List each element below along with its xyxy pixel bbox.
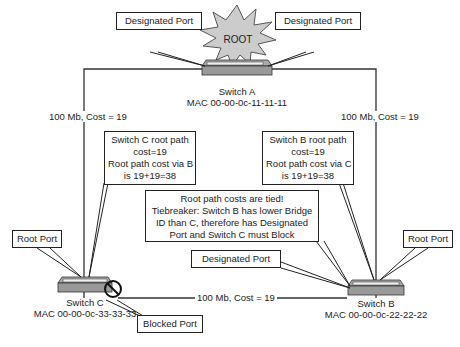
root-label: ROOT xyxy=(218,34,258,45)
link-c-b-label: 100 Mb, Cost = 19 xyxy=(195,292,277,303)
callout-line: Switch C root path xyxy=(108,134,192,146)
callout-b-designated: Designated Port xyxy=(191,250,281,268)
callout-line: cost=19 xyxy=(108,146,192,158)
callout-a-designated-left: Designated Port xyxy=(116,12,202,30)
stp-diagram: ROOT Designated Port Designated Port Swi… xyxy=(0,0,460,347)
callout-line: Port and Switch C must Block xyxy=(149,229,315,241)
switch-c-mac: MAC 00-00-0c-33-33-33 xyxy=(20,308,150,319)
callout-line: Switch B root path xyxy=(266,134,350,146)
callout-b-root-port: Root Port xyxy=(403,230,453,248)
callout-line: is 19+19=38 xyxy=(108,170,192,182)
switch-c-name: Switch C xyxy=(35,297,135,308)
callout-a-designated-right: Designated Port xyxy=(275,12,361,30)
callout-c-root-port: Root Port xyxy=(12,230,62,248)
switch-a-icon xyxy=(202,60,272,75)
switch-c-icon xyxy=(58,277,112,292)
callout-line: ID than C, therefore has Designated xyxy=(149,217,315,229)
callout-line: Root path costs are tied! xyxy=(149,193,315,205)
callout-c-root-path: Switch C root path cost=19 Root path cos… xyxy=(104,131,196,185)
switch-a-name: Switch A xyxy=(187,86,287,97)
callout-line: is 19+19=38 xyxy=(266,170,350,182)
switch-b-mac: MAC 00-00-0c-22-22-22 xyxy=(311,309,441,320)
switch-b-name: Switch B xyxy=(326,298,426,309)
callout-line: Root path cost via C xyxy=(266,158,350,170)
link-a-b-label: 100 Mb, Cost = 19 xyxy=(340,111,420,122)
callout-tiebreaker: Root path costs are tied! Tiebreaker: Sw… xyxy=(145,190,319,242)
callout-line: Tiebreaker: Switch B has lower Bridge xyxy=(149,205,315,217)
callout-line: cost=19 xyxy=(266,146,350,158)
callout-b-root-path: Switch B root path cost=19 Root path cos… xyxy=(262,131,354,185)
link-a-c-label: 100 Mb, Cost = 19 xyxy=(48,111,128,122)
switch-a-mac: MAC 00-00-0c-11-11-11 xyxy=(172,97,302,108)
callout-line: Root path cost via B xyxy=(108,158,192,170)
switch-b-icon xyxy=(348,280,404,295)
